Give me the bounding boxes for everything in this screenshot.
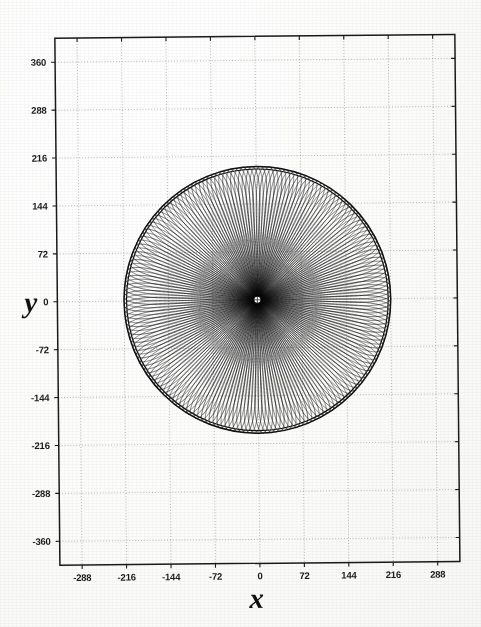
x-axis-title: x — [248, 582, 264, 614]
y-tick-label: 0 — [43, 296, 48, 307]
x-tick-label: -144 — [162, 571, 181, 582]
y-tick-label: -144 — [31, 392, 50, 403]
x-tick-label: -216 — [118, 572, 136, 583]
x-tick-label: 216 — [386, 569, 401, 580]
y-tick-label: 144 — [32, 200, 48, 211]
figure-root: -288-216-144-72072144216288 360288216144… — [0, 0, 481, 627]
y-tick-label: 72 — [38, 248, 48, 259]
y-tick-label: -72 — [36, 344, 49, 355]
x-tick-label: 0 — [257, 570, 262, 581]
x-tick-label: 288 — [430, 569, 445, 580]
y-tick-label: 216 — [32, 153, 47, 164]
x-tick-label: 72 — [299, 570, 309, 581]
x-tick-label: -288 — [73, 572, 91, 583]
x-tick-label: -72 — [209, 571, 222, 582]
y-tick-label: -360 — [32, 536, 50, 547]
y-tick-label: -216 — [31, 440, 49, 451]
y-tick-label: 288 — [31, 105, 46, 116]
orbit-center-marker — [254, 296, 261, 303]
y-tick-label: -288 — [32, 488, 50, 499]
x-tick-label: 144 — [341, 569, 357, 580]
y-tick-label: 360 — [31, 57, 46, 68]
orbit-plot-figure: -288-216-144-72072144216288 360288216144… — [0, 0, 481, 627]
y-axis-title: y — [21, 286, 37, 318]
